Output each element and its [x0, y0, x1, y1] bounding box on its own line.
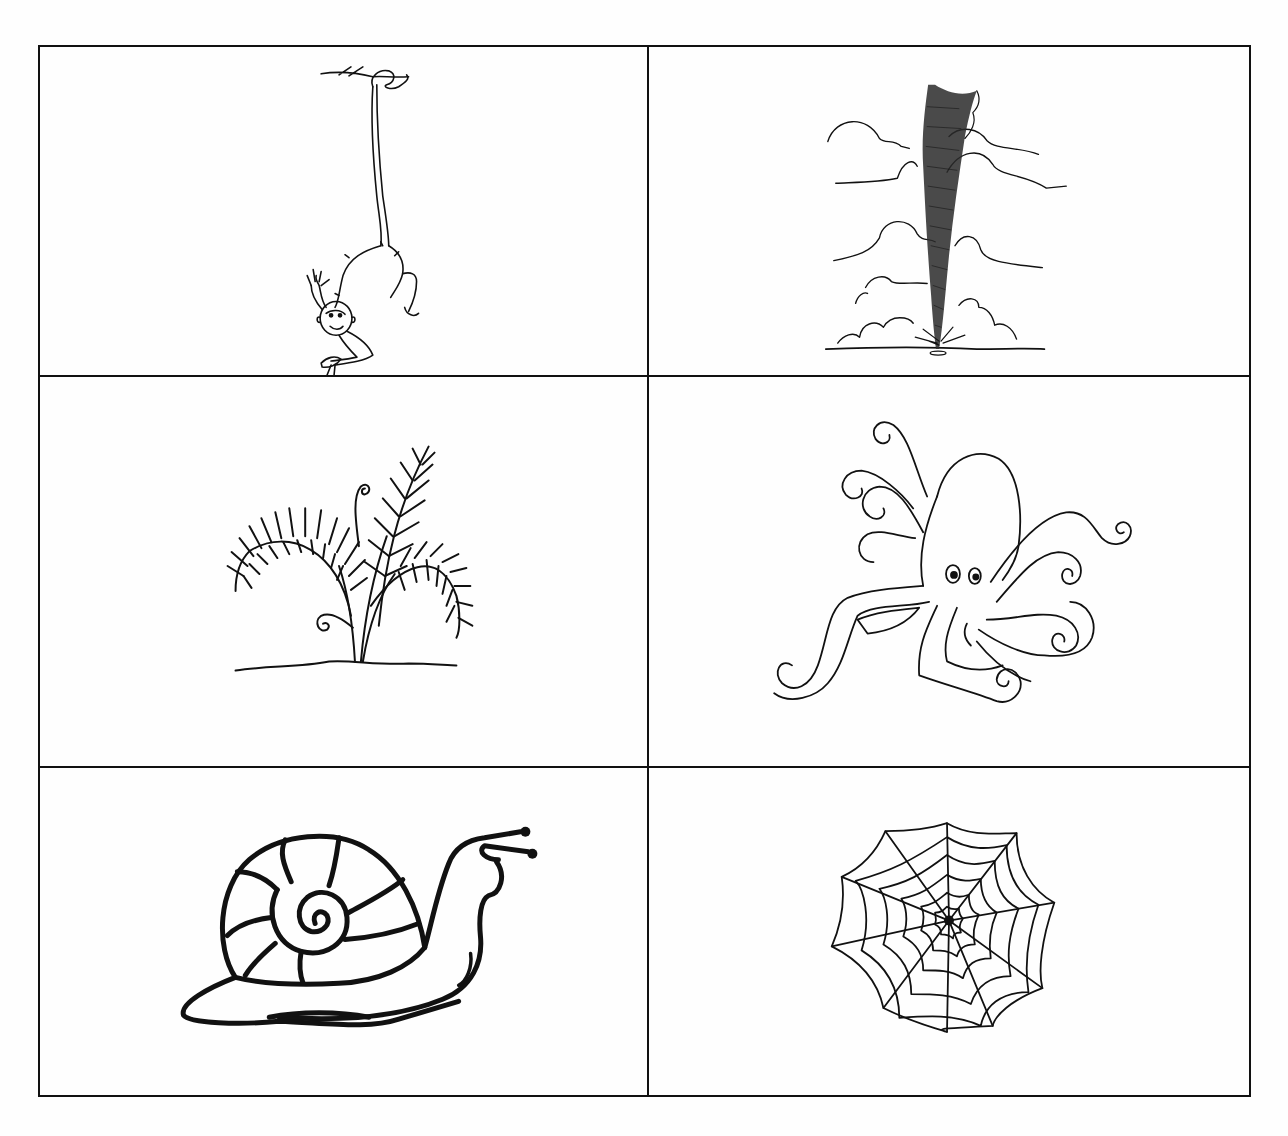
- cell-fern: fern: [40, 377, 649, 768]
- cell-tornado: tornado: [649, 47, 1249, 377]
- picture-grid: monkey: [38, 45, 1251, 1097]
- monkey-icon: monkey: [40, 47, 647, 375]
- tornado-icon: tornado: [649, 47, 1249, 375]
- cell-snail: snail: [40, 768, 649, 1095]
- worksheet-page: monkey: [0, 0, 1288, 1136]
- cell-monkey: monkey: [40, 47, 649, 377]
- cell-octopus: octopus: [649, 377, 1249, 768]
- tornado-funnel: [915, 85, 979, 355]
- octopus-icon: octopus: [649, 377, 1249, 766]
- cell-spider-web: spider web: [649, 768, 1249, 1095]
- spider-web-icon: spider web: [649, 768, 1249, 1095]
- fern-icon: fern: [40, 377, 647, 766]
- snail-icon: snail: [40, 768, 647, 1095]
